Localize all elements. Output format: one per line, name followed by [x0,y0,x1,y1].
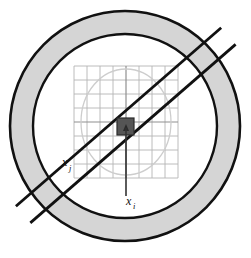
figure-container: x j x i [0,0,251,258]
annulus-diagram: x j x i [0,0,251,258]
label-xj-base: x [61,155,68,169]
label-xi-base: x [125,194,132,208]
